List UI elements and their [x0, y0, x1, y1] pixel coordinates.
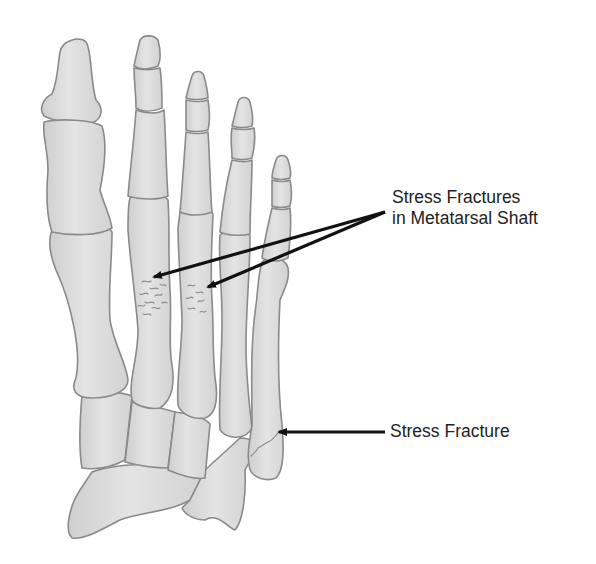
fifth-toe-distal [272, 156, 291, 180]
third-toe-proximal [180, 132, 212, 215]
hallux-proximal-phalanx [44, 120, 112, 235]
label-text: Stress Fracture [390, 421, 510, 441]
fourth-toe-middle [231, 128, 255, 160]
metatarsal-shaft-fracture-label: Stress Fractures in Metatarsal Shaft [392, 187, 538, 229]
label-line-1: Stress Fractures [392, 187, 538, 208]
fourth-toe-proximal [220, 160, 252, 235]
foot-skeleton-diagram [0, 0, 596, 564]
second-toe-middle [134, 68, 162, 111]
third-toe-middle [186, 100, 210, 132]
label-line-2: in Metatarsal Shaft [392, 208, 538, 229]
fourth-metatarsal [219, 230, 252, 437]
second-toe-distal [134, 36, 160, 69]
hallux-distal-phalanx [42, 39, 102, 123]
second-metatarsal [128, 192, 173, 408]
third-metatarsal [178, 207, 217, 418]
third-toe-distal [186, 72, 208, 100]
fifth-metatarsal [248, 258, 288, 480]
fifth-metatarsal-fracture-label: Stress Fracture [390, 421, 510, 442]
first-metatarsal [50, 222, 128, 398]
second-toe-proximal [128, 110, 168, 199]
intermediate-cuneiform [125, 402, 175, 468]
fourth-toe-distal [232, 98, 253, 128]
lateral-cuneiform [168, 412, 210, 478]
fifth-toe-middle [272, 180, 292, 208]
medial-cuneiform [80, 392, 132, 469]
